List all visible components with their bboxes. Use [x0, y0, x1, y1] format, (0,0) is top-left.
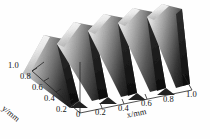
y-tick-label-0.2: 0.2	[56, 105, 67, 114]
y-tick-label-0.6: 0.6	[32, 83, 43, 92]
x-tick-label-0: 0	[76, 110, 80, 119]
x-tick-label-1.0: 1.0	[186, 90, 197, 99]
surface-plot-canvas	[0, 0, 210, 139]
surface-plot-figure: 1.0 0.8 0.6 0.4 0.2 0 0.2 0.4 0.6 0.8 1.…	[0, 0, 210, 139]
y-tick-label-0.8: 0.8	[20, 72, 31, 81]
y-tick-label-0.4: 0.4	[44, 94, 55, 103]
x-tick-label-0.8: 0.8	[163, 95, 174, 104]
y-tick-label-1.0: 1.0	[8, 61, 19, 70]
x-tick-label-0.2: 0.2	[95, 108, 106, 117]
